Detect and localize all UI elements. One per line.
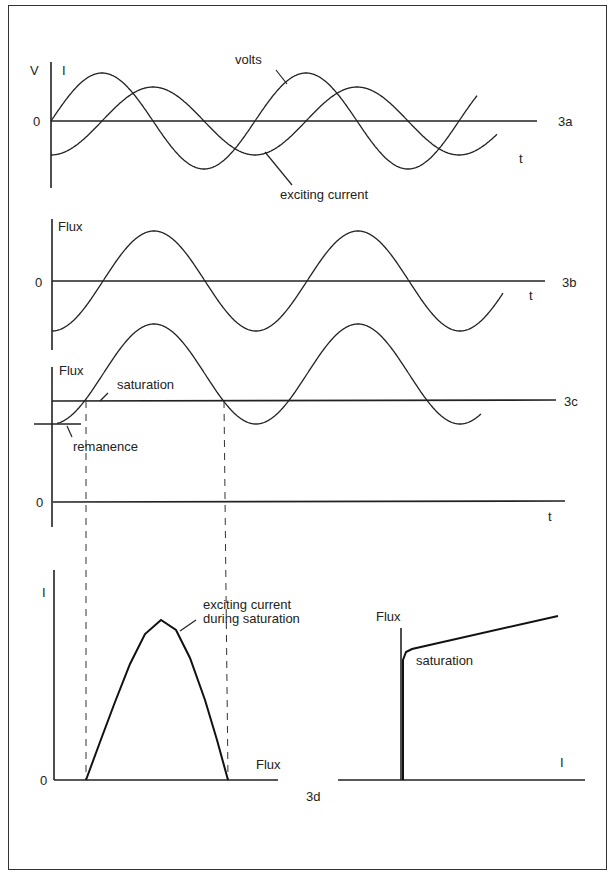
saturated-flux-curve	[57, 324, 481, 424]
panel-tag-3a: 3a	[558, 114, 573, 129]
pulse-annotation-line2: during saturation	[203, 611, 300, 626]
current-leader-line	[265, 152, 292, 185]
axis-label-i: I	[62, 63, 66, 78]
volts-leader-line	[276, 70, 287, 84]
zero-line	[53, 501, 565, 502]
time-label: t	[519, 151, 523, 166]
flux-label: Flux	[58, 219, 83, 234]
volts-annotation: volts	[235, 52, 262, 67]
flux-label: Flux	[59, 363, 84, 378]
saturation-line	[52, 400, 556, 401]
axis-label-v: V	[30, 63, 39, 78]
time-label: t	[529, 288, 533, 303]
panel-3d-left: I 0 Flux exciting current during saturat…	[40, 570, 300, 788]
remanence-annotation: remanence	[73, 439, 138, 454]
pulse-leader-line	[180, 620, 196, 631]
panel-3b: Flux 0 t 3b	[35, 219, 576, 350]
time-label: t	[548, 509, 552, 524]
zero-label: 0	[33, 114, 40, 129]
panel-tag-3b: 3b	[562, 275, 576, 290]
current-annotation: exciting current	[280, 187, 369, 202]
zero-label: 0	[35, 275, 42, 290]
panel-tag-3d: 3d	[306, 789, 320, 804]
panel-3a: V I 0 t 3a volts exciting current	[30, 52, 573, 202]
panel-3d-right: Flux I saturation	[338, 609, 585, 780]
current-axis-label: I	[560, 755, 564, 770]
waveform-figure: V I 0 t 3a volts exciting current Flux 0…	[0, 0, 612, 883]
saturation-annotation: saturation	[117, 377, 174, 392]
saturation-end-guide	[224, 401, 228, 780]
magnetization-curve	[403, 616, 558, 780]
flux-axis-label: Flux	[376, 609, 401, 624]
saturation-leader-line	[100, 393, 108, 401]
panel-tag-3c: 3c	[564, 394, 578, 409]
zero-label: 0	[40, 773, 47, 788]
zero-label: 0	[36, 495, 43, 510]
pulse-annotation-line1: exciting current	[203, 597, 292, 612]
flux-axis-label: Flux	[256, 757, 281, 772]
current-axis-label: I	[42, 585, 46, 600]
panel-3c: Flux 0 t 3c saturation remanence	[34, 324, 578, 780]
saturation-current-pulse	[86, 620, 228, 780]
saturation-annotation: saturation	[416, 653, 473, 668]
remanence-leader-line	[67, 426, 72, 437]
